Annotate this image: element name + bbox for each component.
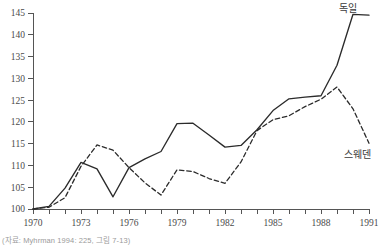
y-tick-label: 130 (11, 74, 26, 84)
chart-figure: 100105110115120125130135140145 197019731… (0, 0, 383, 246)
x-axis-tick-group: 19701973197619791982198519881991 (24, 209, 379, 228)
y-tick-label: 100 (11, 204, 26, 214)
series-line-germany (33, 14, 369, 209)
x-tick-label: 1976 (120, 218, 139, 228)
y-tick-label: 135 (11, 52, 26, 62)
x-tick-label: 1991 (360, 218, 379, 228)
x-tick-label: 1979 (168, 218, 187, 228)
source-note: (자료: Myhrman 1994: 225, 그림 7-13) (2, 234, 130, 245)
y-axis-tick-group: 100105110115120125130135140145 (11, 8, 33, 214)
x-tick-label: 1973 (72, 218, 91, 228)
series-label-sweden: 스웨덴 (344, 149, 371, 160)
y-tick-label: 105 (11, 183, 26, 193)
y-tick-label: 115 (11, 139, 25, 149)
series-label-germany: 독일 (339, 3, 357, 14)
y-tick-label: 145 (11, 8, 26, 18)
y-tick-label: 110 (11, 161, 25, 171)
y-tick-label: 125 (11, 96, 26, 106)
series-line-sweden (33, 87, 369, 209)
x-tick-label: 1988 (312, 218, 331, 228)
x-tick-label: 1985 (264, 218, 283, 228)
x-tick-label: 1970 (24, 218, 43, 228)
y-tick-label: 140 (11, 30, 26, 40)
line-chart-svg: 100105110115120125130135140145 197019731… (0, 0, 383, 246)
y-tick-label: 120 (11, 117, 26, 127)
x-tick-label: 1982 (216, 218, 235, 228)
